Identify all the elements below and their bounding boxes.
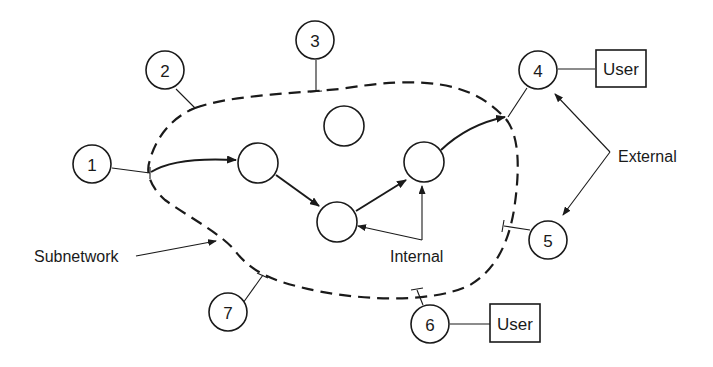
- subnetwork-diagram: 1 2 3 4 5 6 7 User User External Interna…: [0, 0, 713, 367]
- svg-text:2: 2: [160, 62, 169, 81]
- svg-text:3: 3: [310, 32, 319, 51]
- svg-text:6: 6: [425, 316, 434, 335]
- external-node-1: 1: [73, 145, 111, 183]
- svg-text:User: User: [497, 315, 533, 334]
- user-box-6: User: [490, 304, 540, 342]
- connector-4: [508, 88, 527, 117]
- edge-1-to-a: [151, 159, 236, 172]
- edge-c-to-d: [356, 180, 406, 211]
- svg-text:7: 7: [223, 304, 232, 323]
- tick-5: [502, 220, 504, 232]
- external-node-5: 5: [529, 221, 567, 259]
- external-node-7: 7: [209, 293, 247, 331]
- subnetwork-label: Subnetwork: [34, 248, 119, 265]
- internal-node-b: [324, 106, 364, 146]
- external-node-3: 3: [296, 21, 334, 59]
- svg-text:1: 1: [87, 156, 96, 175]
- connector-2: [176, 89, 195, 108]
- connector-5: [504, 226, 530, 230]
- external-node-4: 4: [519, 51, 557, 89]
- internal-label: Internal: [390, 248, 443, 265]
- connector-1: [112, 168, 150, 173]
- edge-a-to-c: [276, 175, 319, 206]
- subnetwork-arrow: [136, 241, 216, 256]
- external-arrow-4: [555, 94, 610, 152]
- connector-7: [243, 275, 263, 303]
- svg-text:User: User: [603, 60, 639, 79]
- svg-text:4: 4: [533, 62, 542, 81]
- internal-arrow-c: [358, 226, 422, 240]
- tick-6: [411, 288, 423, 290]
- internal-node-c: [317, 202, 357, 242]
- external-label: External: [618, 148, 677, 165]
- svg-text:5: 5: [543, 232, 552, 251]
- edge-d-to-4: [441, 117, 505, 150]
- external-node-6: 6: [411, 305, 449, 343]
- external-node-2: 2: [146, 51, 184, 89]
- external-arrow-5: [563, 152, 610, 215]
- internal-node-d: [404, 142, 444, 182]
- internal-node-a: [238, 143, 278, 183]
- tick-2: [189, 106, 201, 110]
- user-box-4: User: [596, 50, 646, 87]
